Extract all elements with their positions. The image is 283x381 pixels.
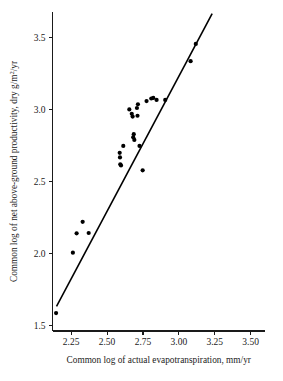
data-point (136, 102, 140, 106)
data-point (135, 106, 139, 110)
y-tick-label-3.0: 3.0 (34, 105, 46, 115)
y-axis-title: Common log of net above-ground productiv… (8, 60, 19, 282)
regression-line (57, 14, 213, 307)
scatter-plot-figure: 1.52.02.53.03.5 2.252.502.753.003.253.50… (0, 0, 283, 381)
data-point (75, 231, 79, 235)
x-axis-title: Common log of actual evapotranspiration,… (67, 355, 252, 365)
data-point (121, 144, 125, 148)
data-point (118, 151, 122, 155)
data-point (71, 251, 75, 255)
y-axis-title-main: Common log of net above-ground productiv… (9, 74, 19, 282)
x-tick-label-2.75: 2.75 (135, 337, 152, 347)
data-point (144, 99, 148, 103)
y-tick-label-1.5: 1.5 (34, 321, 46, 331)
data-point (81, 220, 85, 224)
data-point (137, 144, 141, 148)
data-point (131, 115, 135, 119)
data-point (141, 168, 145, 172)
x-tick-label-3.25: 3.25 (206, 337, 223, 347)
x-axis-tick-marks (71, 331, 250, 335)
data-point (132, 138, 136, 142)
y-axis-title-tail: /yr (9, 60, 19, 71)
x-tick-label-2.50: 2.50 (99, 337, 116, 347)
chart-canvas: 1.52.02.53.03.5 2.252.502.753.003.253.50… (0, 0, 283, 381)
y-tick-label-3.5: 3.5 (34, 33, 46, 43)
y-axis-tick-marks (49, 38, 53, 325)
x-tick-label-3.50: 3.50 (242, 337, 259, 347)
y-tick-label-2.5: 2.5 (34, 177, 46, 187)
data-point (127, 107, 131, 111)
data-point (154, 98, 158, 102)
data-point (118, 155, 122, 159)
data-point (132, 132, 136, 136)
data-point (54, 311, 58, 315)
x-tick-label-2.25: 2.25 (63, 337, 80, 347)
data-point (119, 163, 123, 167)
data-point (163, 98, 167, 102)
data-point (194, 42, 198, 46)
data-point (135, 114, 139, 118)
x-axis-tick-labels: 2.252.502.753.003.253.50 (63, 337, 259, 347)
y-tick-label-2.0: 2.0 (34, 249, 46, 259)
data-point (87, 231, 91, 235)
y-axis-tick-labels: 1.52.02.53.03.5 (34, 33, 46, 330)
data-point (189, 59, 193, 63)
x-tick-label-3.00: 3.00 (171, 337, 188, 347)
